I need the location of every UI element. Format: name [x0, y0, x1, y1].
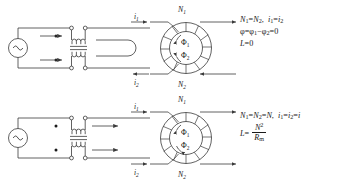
polarity-dots-top: [55, 35, 58, 62]
ac-source-bottom: [9, 118, 53, 158]
toroid-bottom: [150, 112, 236, 164]
ac-source-top: [9, 28, 53, 68]
equations-bottom: N1=N2=N, i1=i2=i L= N2 Rm: [240, 110, 300, 143]
label-flux1-top: Φ1: [181, 38, 190, 48]
label-N2-bottom: N2: [177, 170, 186, 180]
coil-primary-bottom: [72, 120, 86, 134]
label-i1-bottom: i1: [134, 102, 139, 112]
label-i1-top: i1: [134, 12, 139, 22]
label-N1-bottom: N1: [177, 95, 186, 105]
label-i2-top: i2: [134, 78, 139, 88]
coil-primary-top: [72, 30, 86, 44]
panel-top: [9, 22, 237, 74]
label-N2-top: N2: [177, 80, 186, 90]
label-flux2-top: Φ2: [181, 51, 190, 61]
label-N1-top: N1: [177, 5, 186, 15]
equation-top-line-2: φ=φ1−φ2=0: [240, 26, 283, 38]
label-i2-bottom: i2: [134, 168, 139, 178]
coil-secondary-top: [72, 52, 86, 66]
figure-canvas: i1 i2 N1 N2 Φ1 Φ2 i1 i2 N1 N2 Φ1 Φ2: [0, 0, 352, 180]
equation-bottom-line-2: L= N2 Rm: [240, 122, 300, 143]
u-turn-loop-top: [96, 40, 136, 56]
toroid-top: [150, 22, 236, 74]
fraction-inductance: N2 Rm: [252, 122, 266, 143]
label-flux1-bottom: Φ1: [181, 128, 190, 138]
panel-bottom: [9, 112, 237, 164]
equation-top-line-3: L=0: [240, 38, 283, 50]
label-flux2-bottom: Φ2: [181, 141, 190, 151]
equation-bottom-line-1: N1=N2=N, i1=i2=i: [240, 110, 300, 122]
equation-top-line-1: N1=N2, i1=i2: [240, 14, 283, 26]
polarity-dots-bottom: [55, 125, 58, 152]
coil-secondary-bottom: [72, 142, 86, 156]
equations-top: N1=N2, i1=i2 φ=φ1−φ2=0 L=0: [240, 14, 283, 49]
